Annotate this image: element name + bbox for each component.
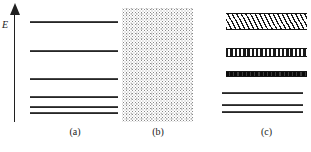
- panel-b: (b): [118, 0, 198, 152]
- panel-c-caption: (c): [222, 126, 311, 138]
- panel-a: (a): [30, 0, 120, 152]
- energy-level: [222, 92, 303, 94]
- stipple-block: [122, 8, 193, 122]
- panel-b-caption: (b): [118, 126, 198, 138]
- energy-level: [30, 112, 118, 114]
- energy-band-figure: E (a) (b) (c): [0, 0, 311, 152]
- upper-filled-band: [226, 48, 307, 57]
- energy-level: [30, 78, 118, 80]
- panel-c: (c): [222, 0, 311, 152]
- panel-a-caption: (a): [30, 126, 120, 138]
- energy-level: [30, 106, 118, 108]
- energy-axis-label: E: [2, 20, 8, 30]
- energy-level: [30, 96, 118, 98]
- valence-band: [226, 71, 307, 77]
- energy-level: [30, 50, 118, 52]
- energy-level: [222, 111, 303, 113]
- conduction-band: [226, 13, 307, 30]
- axis-shaft: [14, 12, 15, 122]
- energy-level: [222, 104, 303, 106]
- energy-level: [30, 21, 118, 23]
